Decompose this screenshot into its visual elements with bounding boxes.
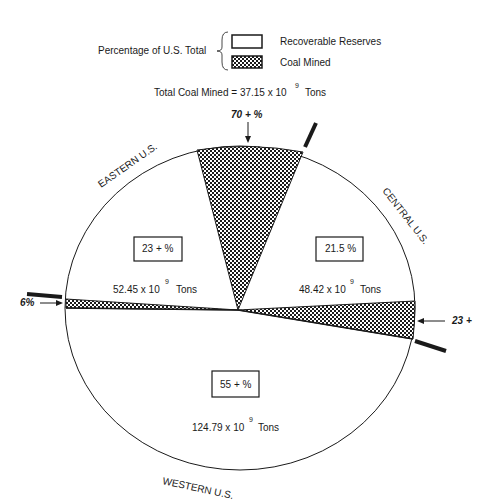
svg-text:9: 9	[165, 278, 169, 285]
svg-text:9: 9	[350, 278, 354, 285]
subtitle: Total Coal Mined = 37.15 x 10 9 Tons	[154, 82, 326, 98]
pie	[27, 123, 446, 470]
western-tons: 124.79 x 10	[192, 422, 245, 433]
legend-swatch-mined	[232, 56, 262, 68]
region-name-western: WESTERN U.S.	[162, 475, 235, 501]
central-tons: 48.42 x 10	[299, 284, 346, 295]
svg-text:9: 9	[249, 416, 253, 423]
svg-text:Tons: Tons	[360, 284, 381, 295]
subtitle-prefix: Total Coal Mined = 37.15 x 10	[154, 87, 287, 98]
legend-label-mined: Coal Mined	[280, 57, 331, 68]
legend-label-reserves: Recoverable Reserves	[280, 36, 381, 47]
eastern-tons: 52.45 x 10	[113, 284, 160, 295]
legend: Percentage of U.S. Total Recoverable Res…	[98, 32, 381, 70]
svg-text:Tons: Tons	[176, 284, 197, 295]
western-reserve-pct: 55 + %	[220, 379, 252, 390]
legend-group-label: Percentage of U.S. Total	[98, 45, 206, 56]
eastern-reserve-pct: 23 + %	[142, 243, 174, 254]
coal-pie-chart: Percentage of U.S. Total Recoverable Res…	[0, 0, 497, 504]
central-mined-pct: 23 +	[451, 315, 472, 326]
boundary-tick-right	[415, 341, 446, 351]
boundary-tick-top	[305, 123, 316, 147]
subtitle-exponent: 9	[295, 82, 299, 89]
legend-swatch-reserves	[232, 35, 262, 48]
central-reserve-pct: 21.5 %	[325, 243, 356, 254]
svg-text:Tons: Tons	[258, 422, 279, 433]
western-mined-pct: 6%	[20, 297, 35, 308]
legend-brace	[217, 32, 228, 70]
eastern-mined-pct: 70 + %	[231, 109, 263, 120]
subtitle-suffix: Tons	[305, 87, 326, 98]
